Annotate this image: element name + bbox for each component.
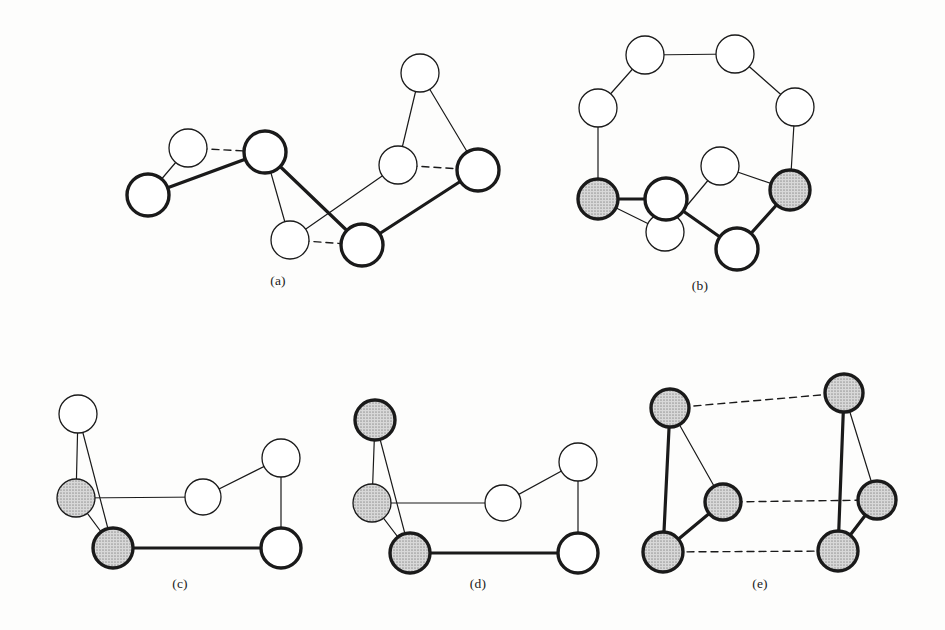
panel-e-edges <box>663 393 877 552</box>
node-b-n10[interactable] <box>716 228 758 270</box>
panel-c-nodes <box>57 395 301 568</box>
node-c-n1[interactable] <box>59 395 97 433</box>
panel-d-nodes <box>353 400 598 573</box>
node-b-n1[interactable] <box>626 36 664 74</box>
node-d-n1[interactable] <box>355 400 395 440</box>
node-c-n4[interactable] <box>185 479 221 515</box>
panel-caption-d: (d) <box>470 576 486 591</box>
node-e-n1[interactable] <box>651 389 689 427</box>
panels-group: (a)(b)(c)(d)(e) <box>57 35 896 591</box>
panel-caption-c: (c) <box>172 576 188 591</box>
edge-e-1-4 <box>723 500 877 502</box>
node-e-n2[interactable] <box>705 484 741 520</box>
node-e-n5[interactable] <box>858 481 896 519</box>
node-c-n2[interactable] <box>57 479 95 517</box>
node-a-n7[interactable] <box>379 146 417 184</box>
panel-a: (a) <box>127 54 499 288</box>
panel-d: (d) <box>353 400 598 591</box>
node-d-n2[interactable] <box>353 484 391 522</box>
node-a-n6[interactable] <box>401 54 439 92</box>
panel-a-nodes <box>127 54 499 266</box>
panel-caption-a: (a) <box>270 273 286 288</box>
node-d-n3[interactable] <box>390 533 430 573</box>
node-a-n4[interactable] <box>271 221 309 259</box>
node-b-n6[interactable] <box>770 170 810 210</box>
figure-root: (a)(b)(c)(d)(e) <box>0 0 945 630</box>
node-c-n6[interactable] <box>261 528 301 568</box>
node-b-n4[interactable] <box>776 88 814 126</box>
panel-caption-b: (b) <box>692 278 708 293</box>
node-a-n1[interactable] <box>127 174 169 216</box>
edge-e-3-5 <box>838 393 844 551</box>
panel-b: (b) <box>578 35 814 293</box>
edge-e-2-5 <box>663 551 838 552</box>
panel-e: (e) <box>643 374 896 591</box>
node-c-n3[interactable] <box>93 528 133 568</box>
node-b-n8[interactable] <box>701 147 739 185</box>
graph-figure-canvas: (a)(b)(c)(d)(e) <box>0 0 945 630</box>
node-a-n2[interactable] <box>169 129 207 167</box>
node-a-n3[interactable] <box>244 131 286 173</box>
node-e-n4[interactable] <box>825 374 863 412</box>
panel-b-edges <box>598 54 795 249</box>
node-b-n3[interactable] <box>579 89 617 127</box>
node-a-n8[interactable] <box>457 149 499 191</box>
panel-caption-e: (e) <box>752 576 768 591</box>
node-b-n5[interactable] <box>578 179 618 219</box>
node-d-n6[interactable] <box>558 533 598 573</box>
node-b-n2[interactable] <box>716 35 754 73</box>
node-e-n6[interactable] <box>818 531 858 571</box>
node-b-n9[interactable] <box>645 178 687 220</box>
node-a-n5[interactable] <box>341 224 383 266</box>
panel-e-nodes <box>643 374 896 572</box>
panel-c: (c) <box>57 395 301 591</box>
node-d-n4[interactable] <box>485 485 521 521</box>
node-e-n3[interactable] <box>643 532 683 572</box>
panel-b-nodes <box>578 35 814 270</box>
node-c-n5[interactable] <box>262 439 300 477</box>
edge-e-0-3 <box>670 393 844 408</box>
node-d-n5[interactable] <box>559 443 597 481</box>
